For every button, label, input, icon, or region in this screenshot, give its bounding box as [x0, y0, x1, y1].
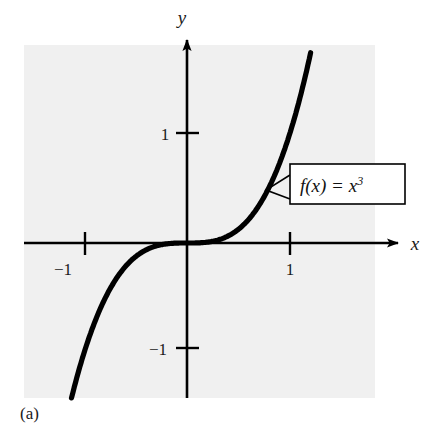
x-tick-label-pos1: 1	[286, 260, 295, 279]
x-tick-label-neg1: −1	[54, 260, 72, 279]
y-tick-label-pos1: 1	[161, 125, 170, 144]
function-callout-expression: f(x) = x	[300, 175, 358, 197]
cubic-function-plot: x y −1 1 1 −1 f(x) = x3	[0, 0, 440, 425]
y-axis-label: y	[176, 7, 187, 28]
x-axis-label: x	[410, 233, 420, 254]
plot-panel	[24, 45, 375, 398]
function-callout-label: f(x) = x3	[300, 174, 363, 197]
figure-caption: (a)	[20, 404, 39, 424]
y-tick-label-neg1: −1	[149, 340, 167, 359]
figure-container: x y −1 1 1 −1 f(x) = x3 (a)	[0, 0, 440, 425]
function-callout-exponent: 3	[356, 174, 363, 188]
